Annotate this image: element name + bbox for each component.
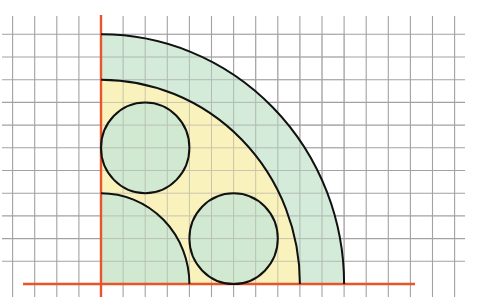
diagram-canvas — [0, 0, 478, 306]
geometry-figure — [0, 0, 478, 306]
shaded-regions — [101, 34, 344, 284]
